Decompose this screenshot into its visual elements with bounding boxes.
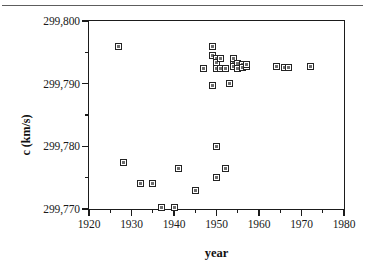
data-point-marker (213, 143, 220, 150)
data-point-marker (209, 82, 216, 89)
y-axis-tick (82, 146, 89, 148)
x-axis-tick-label: 1940 (163, 218, 186, 230)
data-point-marker (273, 63, 280, 70)
data-point-marker (200, 65, 207, 72)
data-point-marker (171, 204, 178, 211)
x-axis-minor-tick (280, 209, 281, 213)
data-point-marker (137, 180, 144, 187)
y-axis-title: c (km/s) (19, 114, 34, 155)
x-axis-title: year (88, 246, 345, 261)
data-point-marker (149, 180, 156, 187)
data-point-marker (307, 63, 314, 70)
data-point-marker (222, 165, 229, 172)
x-axis-tick (88, 209, 90, 216)
data-point-marker (226, 80, 233, 87)
y-axis-tick (82, 83, 89, 85)
x-axis-tick (258, 209, 260, 216)
y-axis-tick-label: 299,790 (43, 78, 80, 90)
y-axis-minor-tick (85, 52, 89, 53)
x-axis-tick (301, 209, 303, 216)
x-axis-minor-tick (195, 209, 196, 213)
y-axis-tick-label: 299,800 (43, 15, 80, 27)
x-axis-minor-tick (110, 209, 111, 213)
x-axis-tick-label: 1930 (120, 218, 143, 230)
data-point-marker (158, 204, 165, 211)
x-axis-tick-label: 1950 (205, 218, 228, 230)
data-point-marker (222, 65, 229, 72)
x-axis-tick-label: 1920 (78, 218, 101, 230)
data-point-marker (120, 159, 127, 166)
x-axis-tick-label: 1970 (290, 218, 313, 230)
y-axis-tick-label: 299,770 (43, 203, 80, 215)
y-axis-tick-label: 299,780 (43, 140, 80, 152)
data-point-marker (285, 64, 292, 71)
x-axis-tick-label: 1960 (248, 218, 271, 230)
y-axis-minor-tick (85, 114, 89, 115)
data-point-marker (192, 187, 199, 194)
page-horizontal-rule (2, 5, 363, 6)
data-point-marker (209, 43, 216, 50)
x-axis-minor-tick (152, 209, 153, 213)
y-axis-tick (82, 20, 89, 22)
y-axis-minor-tick (85, 177, 89, 178)
x-axis-minor-tick (237, 209, 238, 213)
data-point-marker (243, 61, 250, 68)
x-axis-tick (131, 209, 133, 216)
data-point-marker (115, 43, 122, 50)
plot-area: 299,770299,780299,790299,800192019301940… (88, 20, 345, 210)
x-axis-tick (216, 209, 218, 216)
x-axis-tick-label: 1980 (333, 218, 356, 230)
data-point-marker (217, 55, 224, 62)
data-point-marker (175, 165, 182, 172)
data-point-marker (213, 174, 220, 181)
x-axis-tick (343, 209, 345, 216)
x-axis-minor-tick (322, 209, 323, 213)
figure-root: c (km/s) 299,770299,780299,790299,800192… (0, 0, 365, 269)
